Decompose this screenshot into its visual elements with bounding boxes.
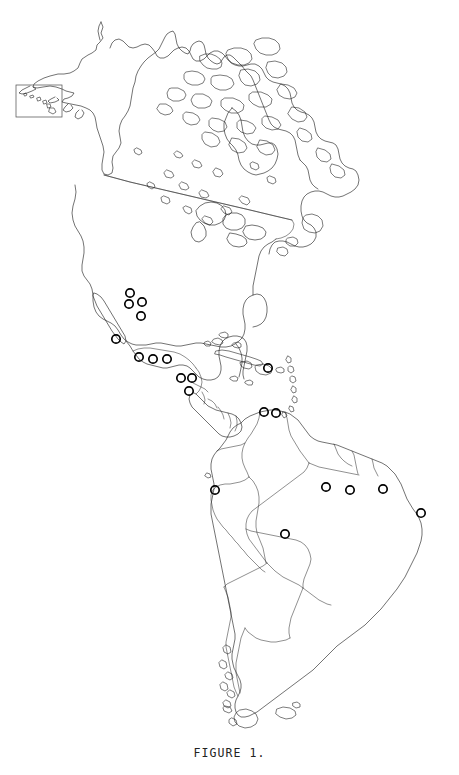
locality-marker [125,300,133,308]
locality-markers [112,289,425,538]
hudson-bay [224,108,278,175]
americas-distribution-map [0,0,459,742]
locality-marker [137,312,145,320]
locality-marker [138,298,146,306]
locality-marker [177,374,185,382]
locality-marker [149,355,157,363]
caribbean-islands [204,332,297,418]
locality-marker [417,509,425,517]
figure-caption: FIGURE 1. [0,746,459,760]
locality-marker [188,374,196,382]
falkland-islands [276,702,300,719]
great-lakes [191,202,266,247]
alaska-outline [19,22,300,175]
south-america-outline [211,410,422,717]
locality-marker [281,530,289,538]
locality-marker [185,387,193,395]
locality-marker [126,289,134,297]
baja-california [93,293,126,344]
united-states-outline [72,175,294,347]
locality-marker [211,486,219,494]
canada-outline [104,39,359,254]
galapagos-islands [205,473,211,478]
locality-marker [163,355,171,363]
figure-container: FIGURE 1. [0,0,459,775]
locality-marker [346,486,354,494]
locality-marker [379,485,387,493]
central-america-outline [189,383,242,437]
locality-marker [322,483,330,491]
locality-marker [135,353,143,361]
chilean-fjords [219,645,235,708]
